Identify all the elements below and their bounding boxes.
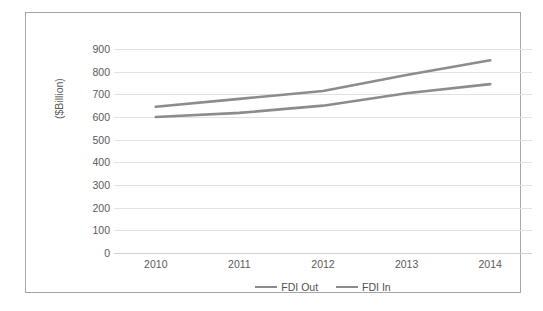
y-tick-label: 200 [66,203,110,213]
chart-figure: ($Billion) 0100200300400500600700800900 … [0,0,543,311]
y-tick-label: 700 [66,89,110,99]
x-tick-label: 2010 [121,258,191,270]
x-tick-label: 2014 [455,258,525,270]
chart-frame: ($Billion) 0100200300400500600700800900 … [25,12,521,293]
x-tick-label: 2013 [372,258,442,270]
legend-label: FDI Out [281,282,318,293]
y-tick-label: 900 [66,44,110,54]
gridline [114,253,532,254]
y-axis-title: ($Billion) [53,78,65,119]
y-tick-label: 100 [66,225,110,235]
y-tick-label: 600 [66,112,110,122]
x-tick-label: 2011 [204,258,274,270]
y-tick-label: 300 [66,180,110,190]
plot-area [114,49,532,253]
chart-legend: FDI OutFDI In [114,279,532,295]
legend-line-icon [255,286,277,289]
series-line [156,84,490,117]
legend-label: FDI In [362,282,391,293]
series-line [156,60,490,106]
legend-entry[interactable]: FDI In [336,282,391,293]
legend-line-icon [336,286,358,289]
y-tick-label: 800 [66,67,110,77]
x-axis-tick-labels: 20102011201220132014 [114,258,532,274]
y-tick-label: 0 [66,248,110,258]
x-tick-label: 2012 [288,258,358,270]
y-tick-label: 500 [66,135,110,145]
y-axis-tick-labels: 0100200300400500600700800900 [66,49,110,253]
series-lines [114,49,532,253]
y-tick-label: 400 [66,157,110,167]
legend-entry[interactable]: FDI Out [255,282,318,293]
